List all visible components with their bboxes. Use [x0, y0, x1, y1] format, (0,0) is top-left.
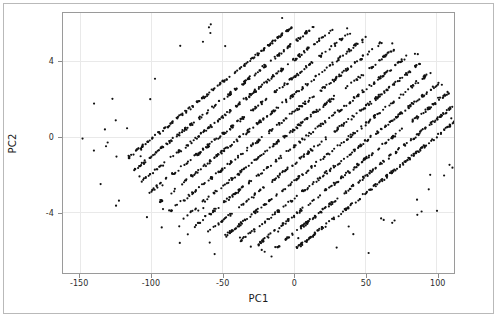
data-point	[263, 169, 265, 171]
data-point	[283, 84, 285, 86]
data-point	[151, 137, 153, 139]
data-point	[314, 216, 316, 218]
data-point	[228, 179, 230, 181]
data-point	[379, 59, 381, 61]
data-point	[369, 189, 371, 191]
data-point	[249, 93, 251, 95]
data-point	[370, 66, 372, 68]
data-point	[382, 75, 384, 77]
data-point	[241, 223, 243, 225]
data-point	[338, 125, 340, 127]
data-point	[258, 88, 260, 90]
data-point	[229, 110, 231, 112]
data-point	[342, 210, 344, 212]
data-point	[198, 135, 200, 137]
data-point	[264, 251, 266, 253]
data-point	[364, 139, 366, 141]
data-point	[399, 164, 401, 166]
data-point	[340, 213, 342, 215]
data-point	[174, 188, 176, 190]
data-point	[415, 150, 417, 152]
data-point	[187, 145, 189, 147]
data-point	[270, 217, 272, 219]
data-point	[282, 135, 284, 137]
data-point	[371, 48, 373, 50]
data-point	[419, 131, 421, 133]
data-point	[93, 149, 95, 151]
data-point	[209, 229, 211, 231]
data-point	[356, 60, 358, 62]
data-point	[321, 71, 323, 73]
data-point	[412, 85, 414, 87]
data-point	[287, 201, 289, 203]
data-point	[436, 118, 438, 120]
data-point	[365, 121, 367, 123]
data-point	[270, 129, 272, 131]
data-point	[322, 106, 324, 108]
data-point	[331, 29, 333, 31]
data-point	[270, 165, 272, 167]
data-point	[318, 73, 320, 75]
data-point	[347, 68, 349, 70]
data-point	[443, 94, 445, 96]
data-point	[185, 178, 187, 180]
data-point	[321, 52, 323, 54]
data-point	[434, 120, 436, 122]
data-point	[197, 169, 199, 171]
data-point	[362, 54, 364, 56]
data-point	[346, 33, 348, 35]
data-point	[440, 132, 442, 134]
data-point	[274, 39, 276, 41]
data-point	[218, 207, 220, 209]
data-point	[223, 150, 225, 152]
data-point	[278, 210, 280, 212]
data-point	[347, 135, 349, 137]
data-point	[291, 77, 293, 79]
data-point	[239, 236, 241, 238]
data-point	[235, 227, 237, 229]
data-point	[390, 51, 392, 53]
data-point	[154, 78, 156, 80]
data-point	[239, 120, 241, 122]
data-point	[348, 225, 350, 227]
data-point	[263, 48, 265, 50]
data-point	[149, 98, 151, 100]
data-point	[258, 243, 260, 245]
data-point	[259, 69, 261, 71]
data-point	[241, 186, 243, 188]
data-point	[413, 138, 415, 140]
data-point	[214, 139, 216, 141]
data-point	[179, 242, 181, 244]
data-point	[437, 82, 439, 84]
data-point	[307, 153, 309, 155]
data-point	[373, 83, 375, 85]
data-point	[178, 132, 180, 134]
data-point	[138, 175, 140, 177]
data-point	[256, 211, 258, 213]
data-point	[130, 154, 132, 156]
data-point	[307, 135, 309, 137]
data-point	[396, 168, 398, 170]
data-point	[371, 154, 373, 156]
data-point	[299, 210, 301, 212]
data-point	[305, 224, 307, 226]
data-point	[333, 184, 335, 186]
data-point	[428, 108, 430, 110]
data-point	[437, 97, 439, 99]
data-point	[380, 128, 382, 130]
data-point	[152, 154, 154, 156]
data-point	[161, 226, 163, 228]
data-point	[319, 55, 321, 57]
data-point	[146, 141, 148, 143]
data-point	[264, 222, 266, 224]
data-point	[420, 210, 422, 212]
data-point	[308, 204, 310, 206]
data-point	[329, 30, 331, 32]
data-point	[407, 157, 409, 159]
data-point	[414, 117, 416, 119]
data-point	[293, 215, 295, 217]
data-point	[176, 135, 178, 137]
data-point	[329, 98, 331, 100]
data-point	[281, 101, 283, 103]
data-point	[202, 219, 204, 221]
